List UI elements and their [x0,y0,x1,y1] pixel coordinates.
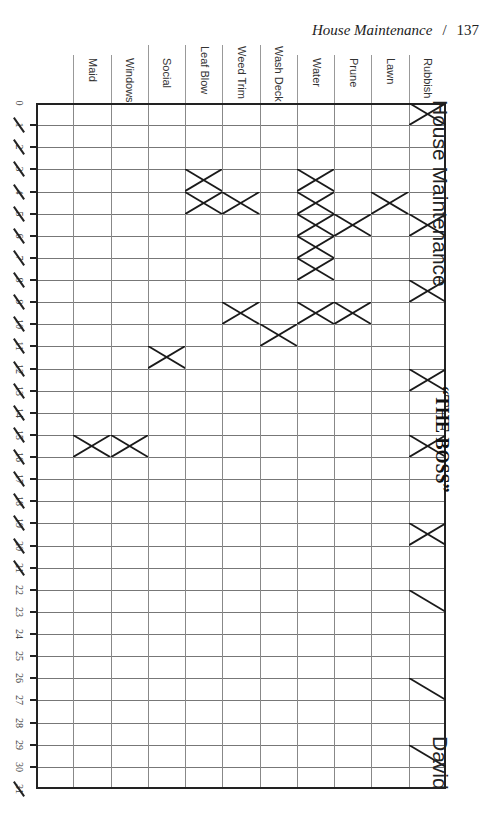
column-header-water: Water [311,58,323,87]
row-label-23: 23 [13,601,25,623]
x-mark-icon [73,435,110,457]
person-name: David [428,736,452,790]
row-label-6: 6 [13,225,25,247]
row-label-15: 15 [13,424,25,446]
grid-row-line [38,767,444,768]
section-title: House Maintenance [428,100,452,287]
row-label-7: 7 [13,247,25,269]
row-label-9: 9 [13,291,25,313]
row-label-11: 11 [13,335,25,357]
row-label-12: 12 [13,358,25,380]
row-label-21: 21 [13,557,25,579]
column-divider [73,55,74,103]
x-mark-icon [334,214,371,236]
grid-row-line [38,214,444,215]
grid-row-line [38,258,444,259]
grid-row-line [38,236,444,237]
row-label-17: 17 [13,468,25,490]
grid-row-line [38,723,444,724]
row-label-30: 30 [13,756,25,778]
grid-row-line [38,324,444,325]
column-header-prune: Prune [348,58,360,87]
column-header-lawn: Lawn [385,58,397,84]
column-header-windows: Windows [124,58,136,103]
grid-row-line [38,125,444,126]
running-head-title: House Maintenance [312,22,432,38]
grid-row-line [38,391,444,392]
page-number: 137 [457,22,480,38]
row-label-28: 28 [13,712,25,734]
row-label-5: 5 [13,203,25,225]
grid-col-line [334,105,335,787]
row-label-29: 29 [13,734,25,756]
slash-mark-icon [409,590,446,612]
grid-row-line [38,523,444,524]
row-label-2: 2 [13,136,25,158]
row-label-1: 1 [13,114,25,136]
x-mark-icon [111,435,148,457]
column-header-weed-trim: Weed Trim [236,46,248,99]
row-label-10: 10 [13,313,25,335]
chore-grid [36,103,446,789]
row-label-0: 0 [13,92,25,114]
row-label-8: 8 [13,269,25,291]
column-divider [297,55,298,103]
role-title: “THE BOSS” [431,386,452,493]
x-mark-icon [371,192,408,214]
row-label-4: 4 [13,181,25,203]
grid-row-line [38,700,444,701]
row-label-20: 20 [13,535,25,557]
column-divider [222,45,223,103]
column-header-leaf-blow: Leaf Blow [199,46,211,94]
column-header-social: Social [161,58,173,88]
x-mark-icon [297,169,334,191]
grid-row-line [38,612,444,613]
column-divider [260,45,261,103]
x-mark-icon [297,214,334,236]
x-mark-icon [297,302,334,324]
running-head: House Maintenance/137 [312,22,479,39]
grid-row-line [38,745,444,746]
x-mark-icon [297,192,334,214]
x-mark-icon [260,324,297,346]
x-mark-icon [297,258,334,280]
x-mark-icon [222,192,259,214]
x-mark-icon [297,236,334,258]
column-header-wash-deck: Wash Deck [273,46,285,102]
row-label-22: 22 [13,579,25,601]
row-label-16: 16 [13,446,25,468]
grid-row-line [38,568,444,569]
column-divider [409,55,410,103]
grid-row-line [38,656,444,657]
x-mark-icon [185,192,222,214]
row-label-31: 31 [13,778,25,800]
row-label-25: 25 [13,645,25,667]
column-divider [148,45,149,103]
column-divider [111,55,112,103]
grid-row-line [38,678,444,679]
grid-row-line [38,479,444,480]
row-label-24: 24 [13,623,25,645]
grid-row-line [38,147,444,148]
grid-row-line [38,169,444,170]
x-mark-icon [148,346,185,368]
grid-row-line [38,346,444,347]
grid-row-line [38,590,444,591]
grid-col-line [148,105,149,787]
grid-row-line [38,501,444,502]
running-head-separator: / [442,22,446,38]
row-label-14: 14 [13,402,25,424]
x-mark-icon [409,523,446,545]
grid-row-line [38,280,444,281]
grid-row-line [38,413,444,414]
x-mark-icon [222,302,259,324]
column-divider [371,55,372,103]
x-mark-icon [334,302,371,324]
x-mark-icon [185,169,222,191]
grid-row-line [38,634,444,635]
row-label-19: 19 [13,512,25,534]
grid-row-line [38,457,444,458]
row-label-13: 13 [13,380,25,402]
column-divider [334,55,335,103]
slash-mark-icon [409,678,446,700]
